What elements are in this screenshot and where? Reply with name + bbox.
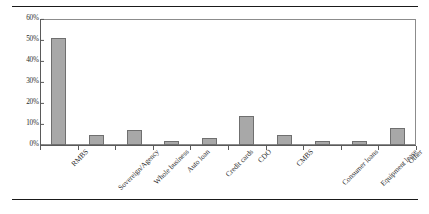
x-axis-category-label: CDO [256,148,272,164]
x-axis-category-labels: RMBSSovereign/AgencyWhole businessAuto l… [40,145,416,200]
bar [239,116,254,145]
x-axis-category-label: CMBS [295,148,315,168]
x-axis-category-label: RMBS [70,148,90,168]
y-axis-tick-label: 20% [26,99,41,106]
y-axis-tick-label: 40% [26,57,41,64]
y-axis-tick: 40% [26,57,41,64]
x-axis-category-label: Credit cards [225,148,255,178]
y-axis-tick: 30% [26,78,41,85]
y-axis-tick-label: 50% [26,36,41,43]
figure-top-rule [12,6,418,7]
bar-series [40,19,416,145]
y-axis-tick: 20% [26,99,41,106]
bar [51,38,66,145]
bar [89,135,104,146]
y-axis-tick: 10% [26,120,41,127]
y-axis-tick-label: 60% [26,15,41,22]
bar [277,135,292,146]
bar [127,130,142,145]
x-axis-category-label: Consumer loans [341,148,380,187]
y-axis-tick-label: 30% [26,78,41,85]
y-axis-tick: 50% [26,36,41,43]
bar [202,138,217,145]
y-axis-tick-label: 10% [26,120,41,127]
x-axis-category-label: Sovereign/Agency [117,148,161,192]
bar [390,128,405,145]
figure-container: 0%10%20%30%40%50%60% RMBSSovereign/Agenc… [0,0,429,214]
y-axis-tick: 60% [26,15,41,22]
